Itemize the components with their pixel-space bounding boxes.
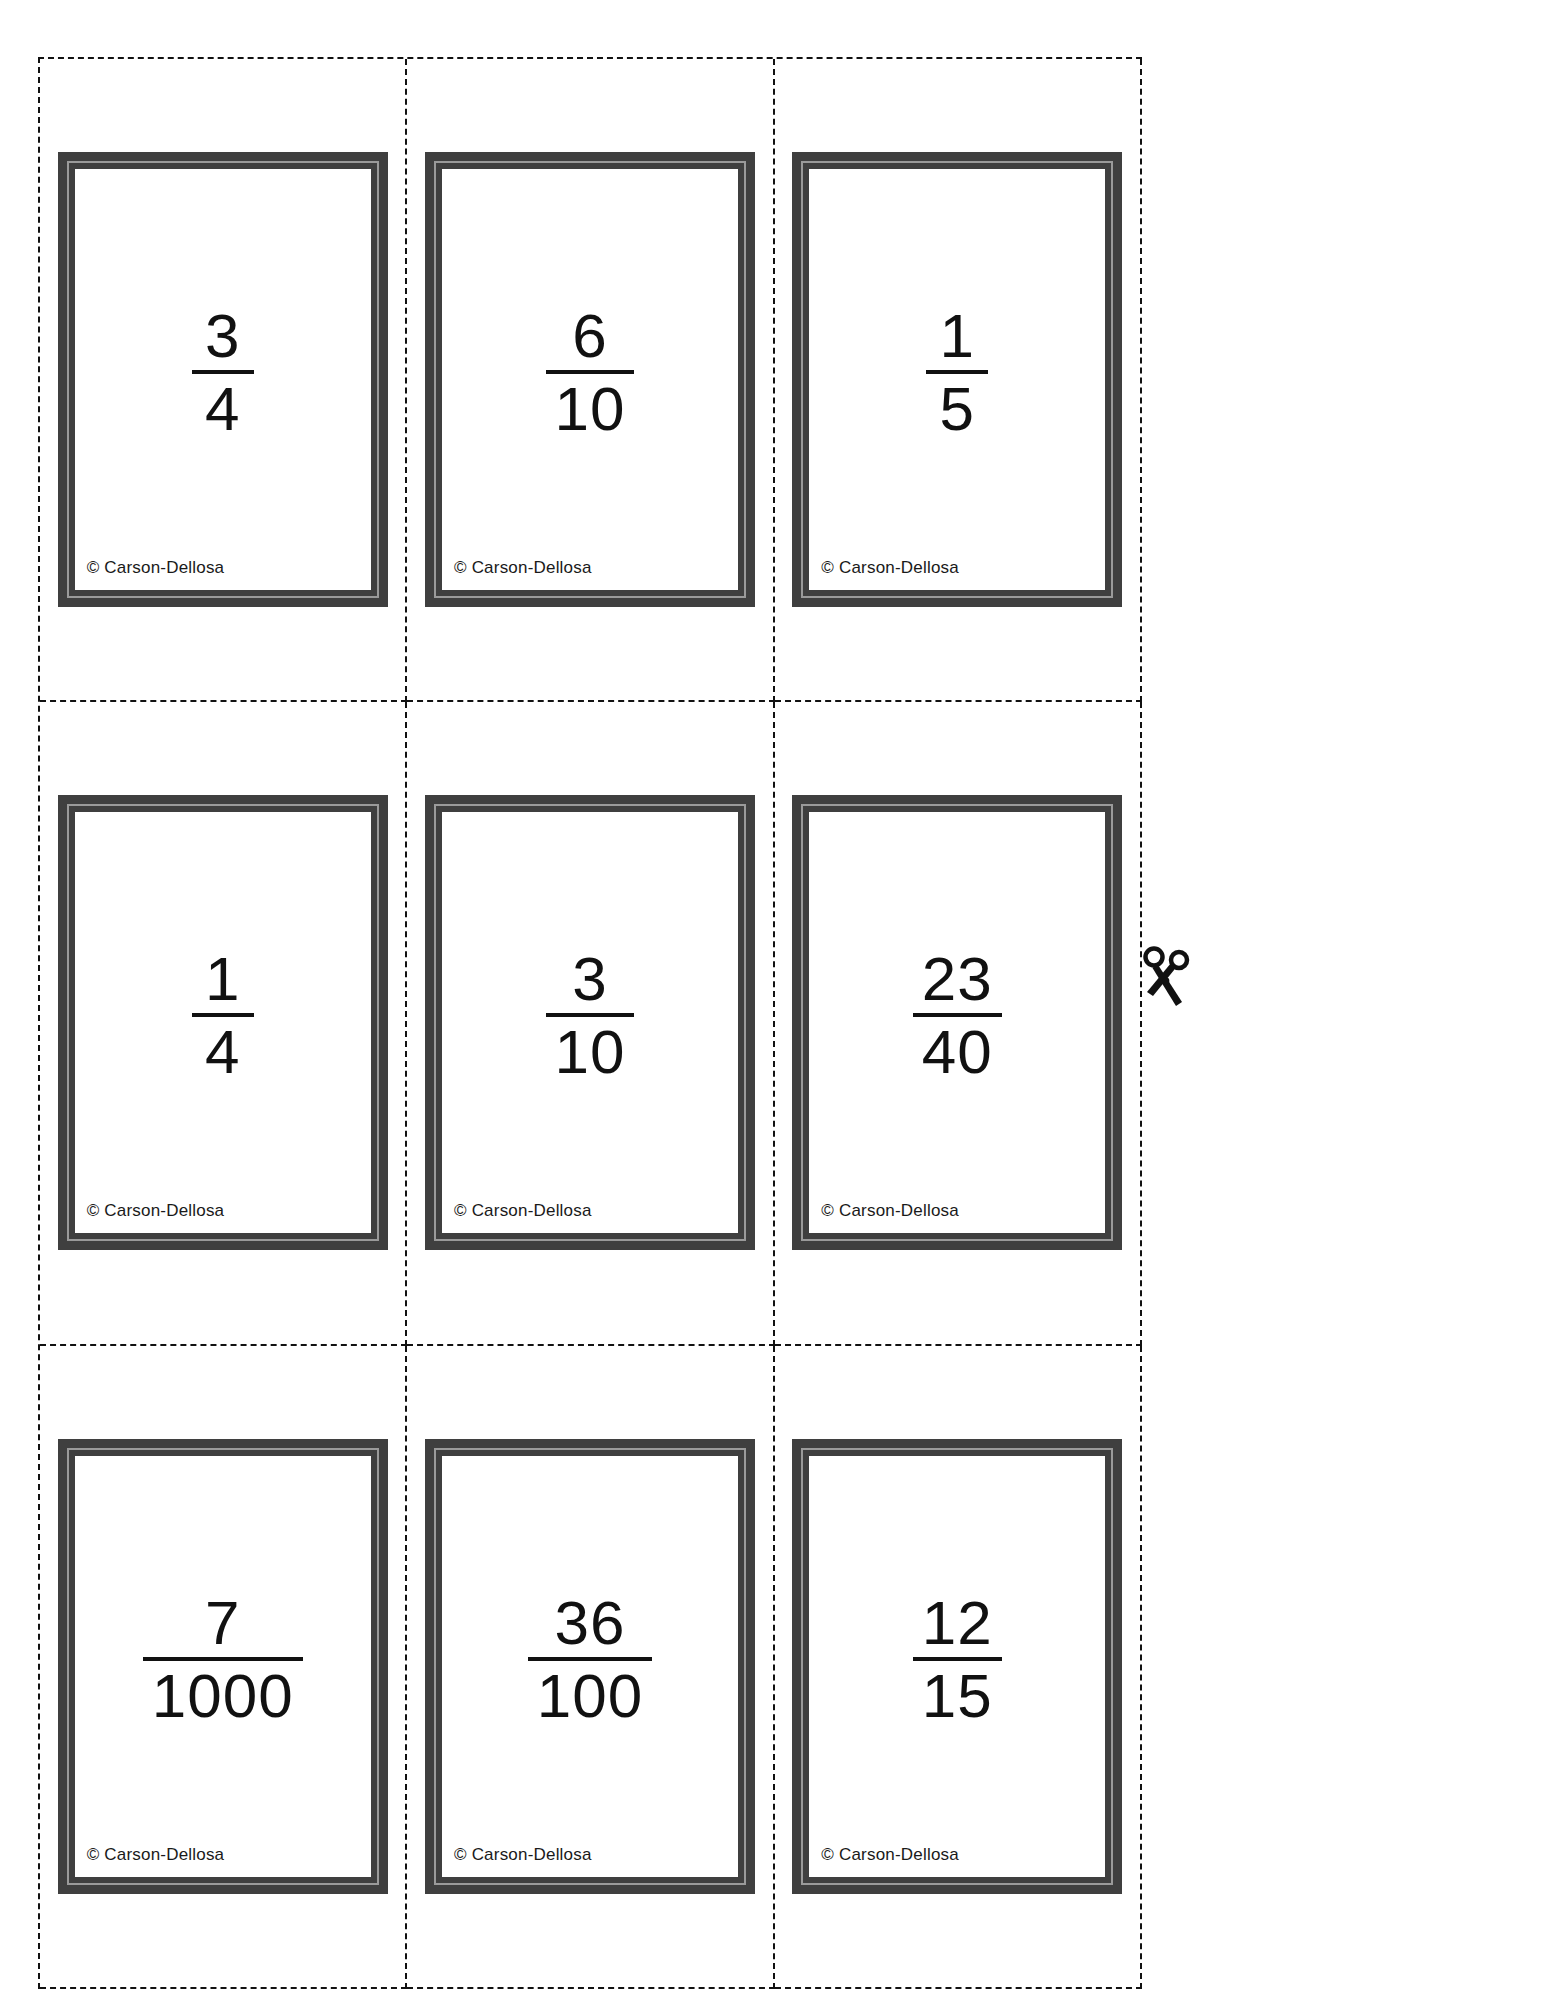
copyright-notice: © Carson-Dellosa xyxy=(821,1201,959,1221)
flash-card[interactable]: 23 40 © Carson-Dellosa xyxy=(792,795,1122,1250)
fraction-denominator: 5 xyxy=(931,374,984,440)
copyright-notice: © Carson-Dellosa xyxy=(454,1845,592,1865)
copyright-notice: © Carson-Dellosa xyxy=(454,558,592,578)
card-face: 7 1000 © Carson-Dellosa xyxy=(75,1456,371,1877)
cut-cell: 36 100 © Carson-Dellosa xyxy=(407,1346,774,1989)
flash-card[interactable]: 1 4 © Carson-Dellosa xyxy=(58,795,388,1250)
cut-line-grid: 3 4 © Carson-Dellosa 6 10 xyxy=(38,57,1142,1989)
card-border-inner: 3 10 © Carson-Dellosa xyxy=(434,804,746,1241)
flash-card-sheet: 3 4 © Carson-Dellosa 6 10 xyxy=(0,0,1565,2016)
cut-cell: 1 5 © Carson-Dellosa xyxy=(775,59,1142,702)
card-border-inner: 7 1000 © Carson-Dellosa xyxy=(67,1448,379,1885)
card-border-inner: 1 5 © Carson-Dellosa xyxy=(801,161,1113,598)
flash-card[interactable]: 36 100 © Carson-Dellosa xyxy=(425,1439,755,1894)
fraction-denominator: 40 xyxy=(913,1017,1002,1083)
copyright-notice: © Carson-Dellosa xyxy=(821,1845,959,1865)
card-border-inner: 6 10 © Carson-Dellosa xyxy=(434,161,746,598)
fraction-denominator: 1000 xyxy=(143,1661,303,1727)
fraction-numerator: 6 xyxy=(563,305,616,370)
fraction: 1 5 xyxy=(926,305,988,440)
cut-cell: 23 40 © Carson-Dellosa xyxy=(775,702,1142,1345)
card-border-inner: 1 4 © Carson-Dellosa xyxy=(67,804,379,1241)
fraction-numerator: 1 xyxy=(931,305,984,370)
fraction: 36 100 xyxy=(528,1592,652,1727)
card-face: 36 100 © Carson-Dellosa xyxy=(442,1456,738,1877)
fraction-numerator: 12 xyxy=(913,1592,1002,1657)
fraction-denominator: 4 xyxy=(196,1017,249,1083)
copyright-notice: © Carson-Dellosa xyxy=(87,558,225,578)
copyright-notice: © Carson-Dellosa xyxy=(821,558,959,578)
flash-card[interactable]: 7 1000 © Carson-Dellosa xyxy=(58,1439,388,1894)
fraction: 7 1000 xyxy=(143,1592,303,1727)
scissors-icon xyxy=(1142,938,1194,1018)
flash-card[interactable]: 6 10 © Carson-Dellosa xyxy=(425,152,755,607)
card-border-inner: 12 15 © Carson-Dellosa xyxy=(801,1448,1113,1885)
card-face: 1 5 © Carson-Dellosa xyxy=(809,169,1105,590)
card-border-inner: 36 100 © Carson-Dellosa xyxy=(434,1448,746,1885)
card-face: 3 10 © Carson-Dellosa xyxy=(442,812,738,1233)
fraction: 1 4 xyxy=(192,948,254,1083)
cut-cell: 12 15 © Carson-Dellosa xyxy=(775,1346,1142,1989)
flash-card[interactable]: 1 5 © Carson-Dellosa xyxy=(792,152,1122,607)
fraction: 3 10 xyxy=(546,948,635,1083)
cut-cell: 3 4 © Carson-Dellosa xyxy=(40,59,407,702)
card-face: 6 10 © Carson-Dellosa xyxy=(442,169,738,590)
fraction-denominator: 10 xyxy=(546,1017,635,1083)
fraction: 6 10 xyxy=(546,305,635,440)
fraction-numerator: 3 xyxy=(563,948,616,1013)
cut-cell: 1 4 © Carson-Dellosa xyxy=(40,702,407,1345)
fraction-numerator: 23 xyxy=(913,948,1002,1013)
cut-cell: 6 10 © Carson-Dellosa xyxy=(407,59,774,702)
card-face: 3 4 © Carson-Dellosa xyxy=(75,169,371,590)
fraction-denominator: 10 xyxy=(546,374,635,440)
fraction-numerator: 36 xyxy=(545,1592,634,1657)
fraction-numerator: 1 xyxy=(196,948,249,1013)
card-face: 1 4 © Carson-Dellosa xyxy=(75,812,371,1233)
fraction-denominator: 4 xyxy=(196,374,249,440)
fraction: 3 4 xyxy=(192,305,254,440)
flash-card[interactable]: 3 4 © Carson-Dellosa xyxy=(58,152,388,607)
flash-card[interactable]: 3 10 © Carson-Dellosa xyxy=(425,795,755,1250)
fraction-denominator: 15 xyxy=(913,1661,1002,1727)
card-face: 23 40 © Carson-Dellosa xyxy=(809,812,1105,1233)
fraction: 12 15 xyxy=(913,1592,1002,1727)
cut-cell: 7 1000 © Carson-Dellosa xyxy=(40,1346,407,1989)
card-border-inner: 3 4 © Carson-Dellosa xyxy=(67,161,379,598)
card-face: 12 15 © Carson-Dellosa xyxy=(809,1456,1105,1877)
fraction-denominator: 100 xyxy=(528,1661,652,1727)
flash-card[interactable]: 12 15 © Carson-Dellosa xyxy=(792,1439,1122,1894)
fraction-numerator: 7 xyxy=(196,1592,249,1657)
card-border-inner: 23 40 © Carson-Dellosa xyxy=(801,804,1113,1241)
copyright-notice: © Carson-Dellosa xyxy=(87,1201,225,1221)
cut-cell: 3 10 © Carson-Dellosa xyxy=(407,702,774,1345)
fraction: 23 40 xyxy=(913,948,1002,1083)
copyright-notice: © Carson-Dellosa xyxy=(454,1201,592,1221)
copyright-notice: © Carson-Dellosa xyxy=(87,1845,225,1865)
fraction-numerator: 3 xyxy=(196,305,249,370)
